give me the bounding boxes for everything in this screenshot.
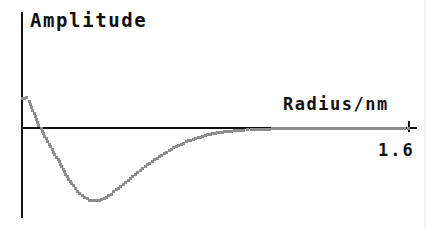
x-axis-label: Radius/nm <box>283 96 389 113</box>
data-series-amplitude <box>0 0 426 229</box>
data-point <box>407 127 410 130</box>
data-point <box>74 187 77 190</box>
data-point <box>242 129 245 132</box>
data-point <box>25 96 28 99</box>
figure-canvas: Amplitude Radius/nm 1.6 <box>0 0 426 229</box>
x-axis-tick-label: 1.6 <box>378 142 415 159</box>
y-axis-label: Amplitude <box>30 11 147 30</box>
data-point <box>246 128 249 131</box>
